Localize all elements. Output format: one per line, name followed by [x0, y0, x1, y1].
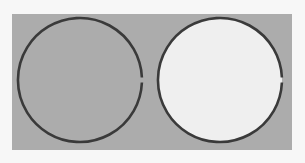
circles-diagram [0, 0, 305, 163]
circle-right [158, 18, 282, 142]
circle-left [18, 18, 142, 142]
